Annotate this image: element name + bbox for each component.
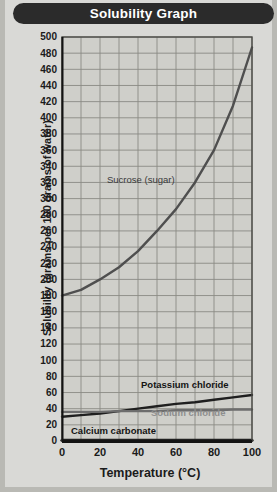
svg-text:140: 140 bbox=[40, 322, 57, 333]
svg-text:260: 260 bbox=[40, 225, 57, 236]
svg-text:300: 300 bbox=[40, 193, 57, 204]
plot-area: 0204060801001201401601802002202402602803… bbox=[5, 0, 277, 492]
svg-text:420: 420 bbox=[40, 96, 57, 107]
svg-text:20: 20 bbox=[46, 419, 58, 430]
svg-text:80: 80 bbox=[208, 446, 220, 458]
svg-text:100: 100 bbox=[40, 355, 57, 366]
svg-text:200: 200 bbox=[40, 274, 57, 285]
svg-text:280: 280 bbox=[40, 209, 57, 220]
svg-text:80: 80 bbox=[46, 371, 58, 382]
svg-text:360: 360 bbox=[40, 145, 57, 156]
svg-text:100: 100 bbox=[243, 446, 261, 458]
y-axis-tick-labels: 0204060801001201401601802002202402602803… bbox=[40, 31, 57, 446]
svg-text:320: 320 bbox=[40, 177, 57, 188]
svg-text:240: 240 bbox=[40, 241, 57, 252]
svg-text:40: 40 bbox=[132, 446, 144, 458]
svg-text:60: 60 bbox=[46, 387, 58, 398]
series-label-sucrose-sugar: Sucrose (sugar) bbox=[107, 174, 175, 185]
svg-text:440: 440 bbox=[40, 80, 57, 91]
svg-text:20: 20 bbox=[94, 446, 106, 458]
svg-text:480: 480 bbox=[40, 48, 57, 59]
svg-text:40: 40 bbox=[46, 403, 58, 414]
svg-text:400: 400 bbox=[40, 112, 57, 123]
svg-text:460: 460 bbox=[40, 64, 57, 75]
x-axis-tick-labels: 020406080100 bbox=[59, 446, 261, 458]
svg-text:380: 380 bbox=[40, 128, 57, 139]
svg-text:500: 500 bbox=[40, 31, 57, 42]
series-label-calcium-carbonate: Calcium carbonate bbox=[71, 425, 156, 436]
series-label-potassium-chloride: Potassium chloride bbox=[141, 379, 229, 390]
svg-text:180: 180 bbox=[40, 290, 57, 301]
svg-text:160: 160 bbox=[40, 306, 57, 317]
svg-text:220: 220 bbox=[40, 258, 57, 269]
svg-text:0: 0 bbox=[51, 435, 57, 446]
series-label-sodium-chloride: Sodium chloride bbox=[151, 407, 225, 418]
svg-text:60: 60 bbox=[170, 446, 182, 458]
solubility-line-chart: 0204060801001201401601802002202402602803… bbox=[5, 0, 277, 492]
figure-card: Solubility Graph Solubility (grams per 1… bbox=[0, 0, 277, 492]
svg-text:0: 0 bbox=[59, 446, 65, 458]
svg-text:340: 340 bbox=[40, 161, 57, 172]
svg-text:120: 120 bbox=[40, 338, 57, 349]
